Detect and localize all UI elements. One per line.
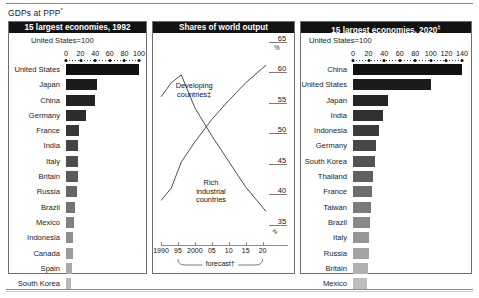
bar-row[interactable]: India xyxy=(301,110,471,125)
bar-row-label: Mexico xyxy=(36,217,60,229)
axis-tick xyxy=(367,59,370,62)
bar[interactable] xyxy=(66,140,78,151)
bar[interactable] xyxy=(353,95,388,106)
bar-row[interactable]: Indonesia xyxy=(301,125,471,140)
bar[interactable] xyxy=(66,202,75,213)
bar-row-label: Germany xyxy=(316,140,347,152)
page-title-text: GDPs at PPP xyxy=(8,8,61,18)
chart-page: GDPs at PPP* 15 largest economies, 1992 … xyxy=(0,0,479,298)
axis-tick xyxy=(108,59,111,62)
bar-row-label: South Korea xyxy=(18,278,60,290)
axis-tick-label: 20 xyxy=(365,49,373,58)
bar-row[interactable]: United States xyxy=(301,79,471,94)
bar[interactable] xyxy=(353,79,431,90)
bar-row[interactable]: Taiwan xyxy=(301,202,471,217)
bar-row[interactable]: Japan xyxy=(9,79,146,94)
axis-tick xyxy=(429,59,432,62)
bar-row-label: Spain xyxy=(41,263,60,275)
bar-row-label: Canada xyxy=(33,248,60,260)
bar[interactable] xyxy=(353,125,379,136)
bar[interactable] xyxy=(66,110,86,121)
axis-tick xyxy=(65,59,68,62)
bar[interactable] xyxy=(66,79,97,90)
bar-row[interactable]: Italy xyxy=(301,232,471,247)
series-lines xyxy=(153,22,296,275)
bar-row-label: United States xyxy=(301,79,347,91)
bar[interactable] xyxy=(353,278,367,289)
bar[interactable] xyxy=(353,232,369,243)
bar-row[interactable]: Brazil xyxy=(301,217,471,232)
bar-row[interactable]: China xyxy=(9,95,146,110)
bar-row[interactable]: Britain xyxy=(301,263,471,278)
axis-tick-label: 80 xyxy=(411,49,419,58)
bar[interactable] xyxy=(66,232,73,243)
bar-row-label: Taiwan xyxy=(323,202,347,214)
bar[interactable] xyxy=(353,171,373,182)
bar-row[interactable]: Canada xyxy=(9,248,146,263)
bar-row[interactable]: Russia xyxy=(9,186,146,201)
bar-row[interactable]: France xyxy=(301,186,471,201)
bar[interactable] xyxy=(353,202,371,213)
bar[interactable] xyxy=(353,140,376,151)
bar-row[interactable]: Germany xyxy=(9,110,146,125)
bar[interactable] xyxy=(66,95,95,106)
bar-row-label: Japan xyxy=(326,95,347,107)
panel-1992: 15 largest economies, 1992 United States… xyxy=(8,21,147,274)
bar-row[interactable]: Mexico xyxy=(301,278,471,293)
bar-row[interactable]: Italy xyxy=(9,156,146,171)
panel-2020: 15 largest economies, 2020‡ United State… xyxy=(300,21,472,274)
axis-tick-label: 140 xyxy=(456,49,468,58)
panel-shares-plot: 65605550454035%∿199095200005101520foreca… xyxy=(153,22,294,273)
bar-row[interactable]: South Korea xyxy=(9,278,146,293)
bar-row[interactable]: Germany xyxy=(301,140,471,155)
bar-row[interactable]: United States xyxy=(9,64,146,79)
axis-tick xyxy=(138,59,141,62)
bar-row[interactable]: Brazil xyxy=(9,202,146,217)
bar[interactable] xyxy=(66,186,77,197)
bar[interactable] xyxy=(66,64,139,75)
panel-1992-unit-note: United States=100 xyxy=(31,36,94,45)
bar[interactable] xyxy=(353,156,375,167)
bar-row[interactable]: Japan xyxy=(301,95,471,110)
bar-row[interactable]: Mexico xyxy=(9,217,146,232)
bar-row[interactable]: Spain xyxy=(9,263,146,278)
bar-row[interactable]: Indonesia xyxy=(9,232,146,247)
panel-2020-bar-rows: ChinaUnited StatesJapanIndiaIndonesiaGer… xyxy=(301,64,471,293)
bar[interactable] xyxy=(66,125,79,136)
axis-tick xyxy=(123,59,126,62)
axis-tick xyxy=(398,59,401,62)
axis-tick-label: 40 xyxy=(91,49,99,58)
bar-row-label: Thailand xyxy=(318,171,347,183)
bar[interactable] xyxy=(66,171,78,182)
bar[interactable] xyxy=(353,217,370,228)
axis-tick xyxy=(414,59,417,62)
bar[interactable] xyxy=(66,248,73,259)
panel-2020-title: 15 largest economies, 2020‡ xyxy=(301,22,471,33)
bar-row-label: France xyxy=(323,186,347,198)
bar-row[interactable]: China xyxy=(301,64,471,79)
bar[interactable] xyxy=(66,263,72,274)
bar-row-label: China xyxy=(327,64,347,76)
page-title-footnote-mark: * xyxy=(61,7,63,13)
bar[interactable] xyxy=(66,278,71,289)
bar[interactable] xyxy=(353,248,369,259)
bar[interactable] xyxy=(66,217,74,228)
series-annotation: Developingcountries‡ xyxy=(176,82,213,99)
bar-row-label: Russia xyxy=(37,186,60,198)
bar[interactable] xyxy=(353,110,383,121)
bar-row[interactable]: South Korea xyxy=(301,156,471,171)
bar[interactable] xyxy=(353,263,368,274)
bar-row-label: Indonesia xyxy=(27,232,60,244)
bar[interactable] xyxy=(66,156,78,167)
bar-row[interactable]: Thailand xyxy=(301,171,471,186)
bar-row[interactable]: Britain xyxy=(9,171,146,186)
bar[interactable] xyxy=(353,186,372,197)
bar-row[interactable]: Russia xyxy=(301,248,471,263)
bar-row[interactable]: France xyxy=(9,125,146,140)
bar-row[interactable]: India xyxy=(9,140,146,155)
axis-baseline xyxy=(66,60,139,61)
bar-row-label: Italy xyxy=(46,156,60,168)
panel-1992-title: 15 largest economies, 1992 xyxy=(9,22,146,33)
bar[interactable] xyxy=(353,64,462,75)
bar-row-label: Russia xyxy=(324,248,347,260)
